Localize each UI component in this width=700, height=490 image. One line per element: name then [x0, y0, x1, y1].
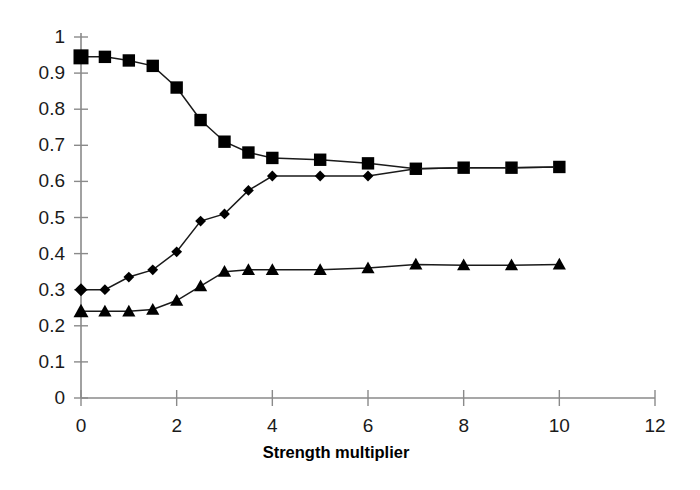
y-tick-label: 1 — [54, 26, 65, 47]
y-tick-label: 0.7 — [39, 134, 65, 155]
data-point-square — [266, 152, 278, 164]
x-axis-ticks: 024681012 — [76, 390, 666, 436]
data-point-diamond — [100, 284, 111, 295]
series-layer — [74, 49, 566, 317]
series-diamonds — [75, 162, 565, 297]
data-point-square — [74, 49, 89, 64]
x-axis-title: Strength multiplier — [263, 443, 410, 461]
series-triangles — [74, 258, 566, 317]
data-point-square — [170, 81, 182, 93]
chart-container: 00.10.20.30.40.50.60.70.80.91 024681012 … — [0, 0, 700, 490]
y-tick-label: 0.2 — [39, 315, 65, 336]
data-point-square — [362, 157, 374, 169]
y-tick-label: 0.5 — [39, 207, 65, 228]
x-tick-label: 10 — [549, 415, 570, 436]
x-tick-label: 0 — [76, 415, 87, 436]
data-point-square — [314, 154, 326, 166]
data-point-diamond — [75, 283, 88, 296]
x-tick-label: 4 — [267, 415, 278, 436]
data-point-square — [194, 114, 206, 126]
data-point-triangle — [74, 304, 89, 317]
y-tick-label: 0.6 — [39, 170, 65, 191]
data-point-triangle — [170, 294, 183, 306]
series-path — [81, 57, 559, 169]
x-tick-label: 8 — [458, 415, 469, 436]
y-tick-label: 0.4 — [39, 243, 66, 264]
y-tick-label: 0.8 — [39, 98, 65, 119]
series-squares — [74, 49, 566, 175]
x-tick-label: 6 — [363, 415, 374, 436]
data-point-square — [123, 54, 135, 66]
line-chart: 00.10.20.30.40.50.60.70.80.91 024681012 … — [0, 0, 700, 490]
data-point-square — [99, 51, 111, 63]
data-point-square — [147, 60, 159, 72]
y-tick-label: 0 — [54, 387, 65, 408]
data-point-triangle — [146, 303, 159, 315]
y-tick-label: 0.1 — [39, 351, 65, 372]
data-point-diamond — [315, 171, 326, 182]
x-tick-label: 12 — [644, 415, 665, 436]
data-point-square — [242, 146, 254, 158]
data-point-square — [218, 135, 230, 147]
data-point-triangle — [553, 258, 566, 270]
y-tick-label: 0.3 — [39, 279, 65, 300]
data-point-diamond — [267, 171, 278, 182]
data-point-diamond — [363, 171, 374, 182]
x-tick-label: 2 — [171, 415, 182, 436]
y-tick-label: 0.9 — [39, 62, 65, 83]
data-point-diamond — [123, 272, 134, 283]
data-point-triangle — [409, 258, 422, 270]
data-point-triangle — [194, 279, 207, 291]
